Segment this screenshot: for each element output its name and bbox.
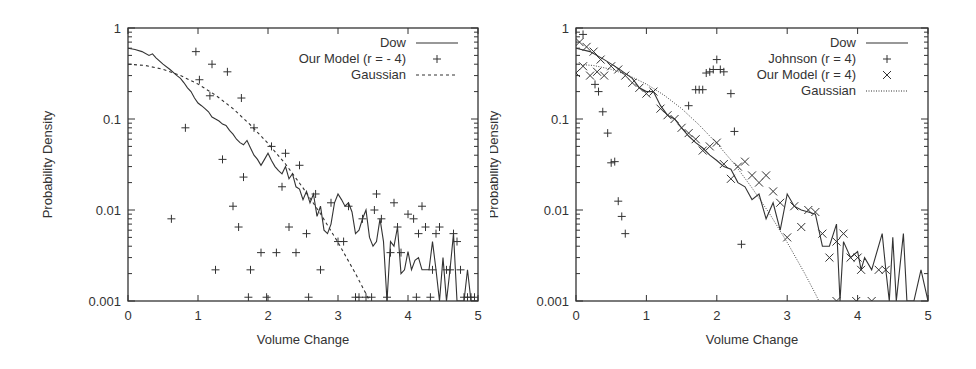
y-tick-label: 0.1 <box>551 112 569 127</box>
y-axis-label: Probability Density <box>490 110 501 218</box>
legend: DowJohnson (r = 4)Our Model (r = 4)Gauss… <box>757 35 908 98</box>
legend-label: Gaussian <box>351 67 406 82</box>
x-tick-label: 3 <box>334 308 341 323</box>
series-our-model-r-4- <box>167 48 478 302</box>
plot-area <box>572 30 928 305</box>
y-tick-label: 0.1 <box>103 112 121 127</box>
y-tick-label: 0.01 <box>544 203 569 218</box>
x-tick-label: 2 <box>264 308 271 323</box>
x-tick-label: 4 <box>854 308 861 323</box>
x-tick-label: 0 <box>124 308 131 323</box>
plot-frame <box>576 28 928 301</box>
y-tick-label: 0.001 <box>536 294 569 309</box>
y-tick-label: 0.01 <box>96 203 121 218</box>
legend-label: Our Model (r = 4) <box>757 67 856 82</box>
legend: DowOur Model (r = - 4)Gaussian <box>299 35 458 82</box>
left-chart-panel: 0.0010.010.11012345Volume ChangeProbabil… <box>0 0 490 369</box>
x-axis-label: Volume Change <box>257 332 350 347</box>
x-tick-label: 3 <box>784 308 791 323</box>
series-dow <box>128 48 478 301</box>
x-tick-label: 0 <box>572 308 579 323</box>
series-gaussian <box>576 64 819 301</box>
right-chart-panel: 0.0010.010.11012345Volume ChangeProbabil… <box>490 0 976 369</box>
y-axis-label: Probability Density <box>40 110 55 218</box>
x-tick-label: 1 <box>194 308 201 323</box>
legend-label: Gaussian <box>801 83 856 98</box>
plot-area <box>128 48 479 302</box>
legend-label: Dow <box>830 35 857 50</box>
x-tick-label: 5 <box>924 308 931 323</box>
plot-frame <box>128 28 478 301</box>
legend-label: Our Model (r = - 4) <box>299 51 406 66</box>
legend-label: Dow <box>380 35 407 50</box>
right-chart: 0.0010.010.11012345Volume ChangeProbabil… <box>490 0 976 369</box>
y-tick-label: 1 <box>114 21 121 36</box>
legend-label: Johnson (r = 4) <box>768 51 856 66</box>
y-tick-label: 1 <box>562 21 569 36</box>
left-chart: 0.0010.010.11012345Volume ChangeProbabil… <box>0 0 490 369</box>
x-tick-label: 4 <box>404 308 411 323</box>
x-tick-label: 5 <box>474 308 481 323</box>
x-tick-label: 2 <box>713 308 720 323</box>
x-tick-label: 1 <box>643 308 650 323</box>
series-gaussian <box>128 64 370 301</box>
y-tick-label: 0.001 <box>88 294 121 309</box>
x-axis-label: Volume Change <box>706 332 799 347</box>
